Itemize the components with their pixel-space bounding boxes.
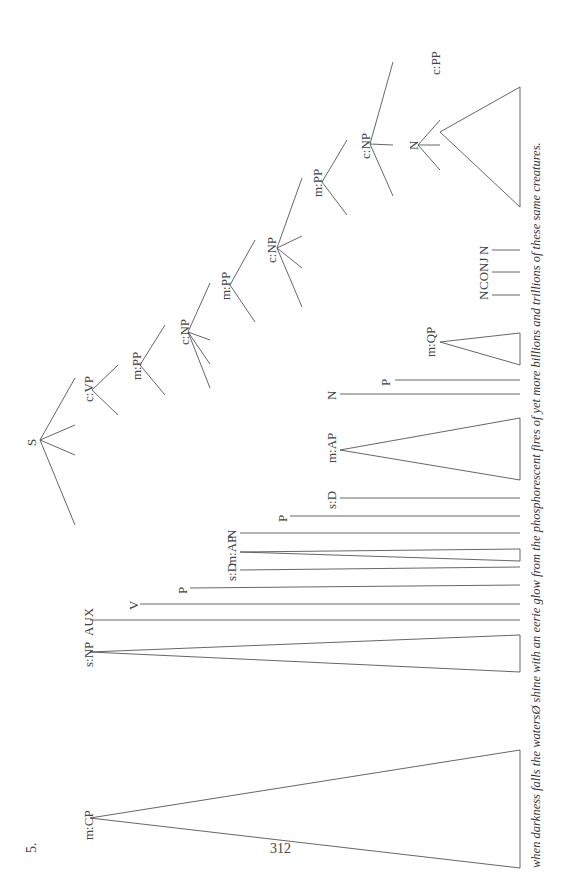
node-s-D-2: s:D xyxy=(324,491,339,509)
tree-leaves xyxy=(90,87,520,868)
node-N-3: N xyxy=(406,140,421,150)
tree-labels: S m:CP s:NP AUX c:VP V m:PP P c:NP s:D m… xyxy=(24,51,491,840)
node-m-AP-1: m:AP xyxy=(224,536,239,566)
node-P-1: P xyxy=(175,587,190,594)
tree-branches xyxy=(40,62,440,525)
node-N-4: N xyxy=(476,290,491,300)
node-c-PP: c:PP xyxy=(428,51,443,75)
node-CONJ: CONJ xyxy=(476,257,491,290)
node-c-NP-1: c:NP xyxy=(177,319,192,345)
node-N-1: N xyxy=(224,529,239,539)
example-sentence: when darkness falls the watersØ shine wi… xyxy=(529,142,543,868)
node-c-VP: c:VP xyxy=(81,376,96,402)
node-m-AP-2: m:AP xyxy=(324,433,339,463)
node-s-NP: s:NP xyxy=(81,642,96,667)
page: S m:CP s:NP AUX c:VP V m:PP P c:NP s:D m… xyxy=(0,0,564,877)
node-AUX: AUX xyxy=(81,607,96,636)
node-S: S xyxy=(24,439,39,446)
node-m-PP-2: m:PP xyxy=(218,272,233,300)
page-number: 312 xyxy=(270,841,291,856)
example-number: 5. xyxy=(24,843,39,854)
node-m-QP: m:QP xyxy=(423,327,438,357)
node-N-5: N xyxy=(476,245,491,255)
node-c-NP-2: c:NP xyxy=(264,237,279,263)
node-V: V xyxy=(126,600,141,610)
node-c-NP-3: c:NP xyxy=(358,133,373,159)
syntax-tree-diagram: S m:CP s:NP AUX c:VP V m:PP P c:NP s:D m… xyxy=(0,0,564,877)
node-N-2: N xyxy=(324,390,339,400)
node-P-3: P xyxy=(378,379,393,386)
node-m-PP-3: m:PP xyxy=(310,169,325,197)
node-P-2: P xyxy=(275,515,290,522)
node-m-CP: m:CP xyxy=(81,810,96,840)
node-m-PP-1: m:PP xyxy=(129,352,144,380)
